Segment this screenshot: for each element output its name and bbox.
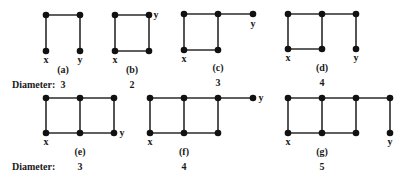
- row1-diameter-label: Diameter:: [12, 79, 55, 90]
- graph-vertex: [319, 46, 326, 53]
- vertex-x-label: x: [182, 53, 187, 64]
- vertex-y-label: y: [354, 52, 359, 63]
- vertex-y-label: y: [78, 54, 83, 65]
- diameter-value: 3: [78, 161, 83, 172]
- graph-c: xy(c)3: [181, 11, 257, 88]
- graph-b: xy(b)2: [112, 9, 159, 90]
- graph-caption: (e): [74, 146, 85, 158]
- graph-vertex: [147, 95, 154, 102]
- graph-vertex: [319, 95, 326, 102]
- graph-f: xy(f)4: [147, 92, 264, 172]
- vertex-y-label: y: [120, 127, 125, 138]
- graph-caption: (d): [316, 62, 328, 74]
- graph-vertex: [181, 11, 188, 18]
- graph-vertex: [319, 130, 326, 137]
- row2-diameter-label: Diameter:: [12, 161, 55, 172]
- vertex-x-label: x: [286, 52, 291, 63]
- diameter-value: 3: [216, 77, 221, 88]
- graph-vertex: [215, 95, 222, 102]
- vertex-x-label: x: [44, 136, 49, 147]
- graph-vertex: [250, 11, 257, 18]
- diameter-value: 2: [130, 79, 135, 90]
- graph-vertex: [215, 11, 222, 18]
- diameter-value: 3: [61, 79, 66, 90]
- graph-vertex: [111, 130, 118, 137]
- graph-vertex: [353, 130, 360, 137]
- vertex-x-label: x: [286, 136, 291, 147]
- graph-vertex: [285, 11, 292, 18]
- graph-vertex: [181, 95, 188, 102]
- graph-vertex: [250, 95, 257, 102]
- diameter-value: 5: [320, 161, 325, 172]
- graph-vertex: [112, 12, 119, 19]
- diameter-value: 4: [320, 77, 325, 88]
- graph-vertex: [181, 130, 188, 137]
- vertex-x-label: x: [44, 54, 49, 65]
- graph-vertex: [285, 95, 292, 102]
- graph-vertex: [319, 11, 326, 18]
- graph-caption: (f): [179, 146, 189, 158]
- graph-vertex: [353, 11, 360, 18]
- graph-diameter-diagram: xy(a)3xy(b)2xy(c)3xy(d)4xy(e)3xy(f)4xy(g…: [0, 0, 406, 179]
- graph-vertex: [77, 95, 84, 102]
- graph-vertex: [43, 95, 50, 102]
- diameter-value: 4: [182, 161, 187, 172]
- graph-vertex: [77, 12, 84, 19]
- graph-vertex: [146, 12, 153, 19]
- graph-caption: (a): [57, 64, 69, 76]
- graph-vertex: [387, 95, 394, 102]
- vertex-y-label: y: [259, 92, 264, 103]
- vertex-x-label: x: [148, 136, 153, 147]
- vertex-x-label: x: [113, 54, 118, 65]
- graph-vertex: [215, 47, 222, 54]
- graph-vertex: [353, 95, 360, 102]
- graph-vertex: [215, 130, 222, 137]
- graph-caption: (b): [126, 64, 138, 76]
- vertex-y-label: y: [251, 18, 256, 29]
- graph-caption: (c): [212, 62, 223, 74]
- graph-d: xy(d)4: [285, 11, 360, 88]
- graph-caption: (g): [316, 146, 328, 158]
- graph-vertex: [111, 95, 118, 102]
- graph-vertex: [77, 130, 84, 137]
- graph-vertex: [146, 48, 153, 55]
- vertex-y-label: y: [388, 136, 393, 147]
- graph-vertex: [43, 12, 50, 19]
- graph-g: xy(g)5: [285, 95, 394, 172]
- vertex-y-label: y: [154, 9, 159, 20]
